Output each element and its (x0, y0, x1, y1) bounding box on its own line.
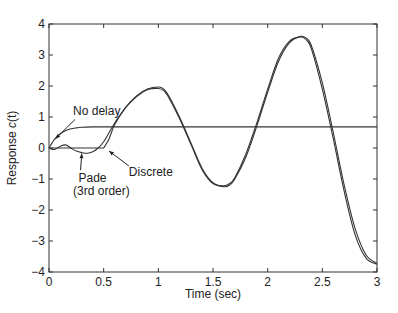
x-axis-label: Time (sec) (185, 287, 241, 301)
y-tick-label: 1 (38, 110, 45, 124)
y-tick-label: −4 (31, 265, 45, 279)
annotation-label: No delay (73, 104, 120, 118)
x-tick-label: 1 (155, 275, 162, 289)
y-axis-label: Response c(t) (5, 111, 19, 186)
y-tick-label: 2 (38, 79, 45, 93)
y-tick-label: 3 (38, 48, 45, 62)
x-tick-label: 2.5 (314, 275, 331, 289)
y-tick-label: 4 (38, 17, 45, 31)
y-axis-label-suffix: (t) (5, 111, 19, 122)
x-tick-label: 3 (374, 275, 381, 289)
y-tick-label: −1 (31, 172, 45, 186)
y-tick-label: −3 (31, 234, 45, 248)
response-chart: 00.511.522.53−4−3−2−101234 No delayPade(… (0, 0, 398, 313)
x-tick-label: 0.5 (95, 275, 112, 289)
annotation-label: (3rd order) (73, 184, 130, 198)
x-tick-label: 2 (264, 275, 271, 289)
y-tick-label: 0 (38, 141, 45, 155)
y-axis-label-prefix: Response (5, 128, 19, 185)
x-tick-label: 0 (46, 275, 53, 289)
y-tick-label: −2 (31, 203, 45, 217)
annotation-label: Discrete (129, 165, 173, 179)
